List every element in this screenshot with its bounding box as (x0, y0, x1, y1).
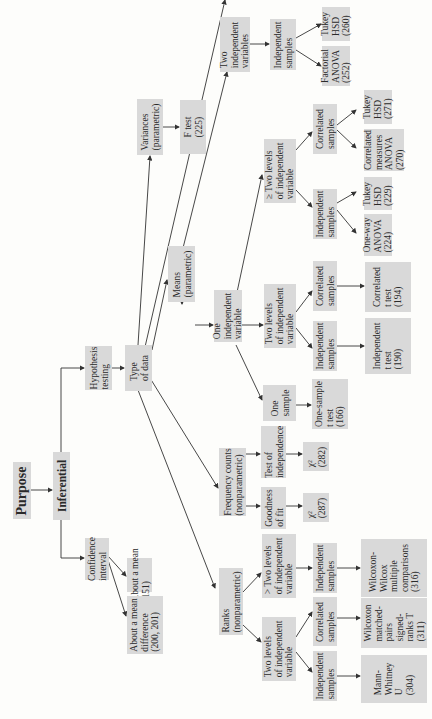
node-factorial-anova: Factorial ANOVA (252) (322, 46, 350, 86)
node-independent-samples-2: Independent samples (313, 321, 337, 371)
node-frequency-counts: Frequency counts (nonparametric) (219, 448, 246, 516)
node-purpose: Purpose (13, 462, 31, 519)
node-wilcoxon-wilcox: Wilcoxon- Wilcox multiple comparisons (3… (361, 539, 427, 597)
node-about-mean-difference: About a mean difference (200, 201) (127, 596, 163, 654)
node-two-levels-ranks: Two levels of independent variable (262, 617, 296, 681)
node-inferential: Inferential (53, 452, 70, 520)
node-correlated-samples-ge2: Correlated samples (313, 104, 337, 154)
node-one-independent-variable: One independent variable (214, 290, 242, 342)
node-f-test: F test (225) (180, 100, 206, 154)
node-correlated-measures-anova: Correlated measures ANOVA (270) (364, 129, 404, 171)
node-test-of-independence: Test of independence (261, 426, 286, 478)
node-about-mean: About a mean (151) (127, 558, 152, 592)
node-independent-t: Independent t test (190) (365, 318, 411, 374)
node-one-sample-t: One-sample t test (166) (312, 379, 348, 429)
node-means: Means (parametric) (168, 246, 195, 302)
node-correlated-t: Correlated t test (194) (365, 262, 411, 312)
node-independent-samples-ranks: Independent samples (313, 651, 337, 701)
node-ranks: Ranks (nonparametric) (219, 568, 243, 635)
node-tukey-229: Tukey HSD (229) (364, 177, 392, 210)
node-type-of-data: Type of data (125, 345, 152, 391)
node-wilcoxon-signed-ranks: Wilcoxon matched- pairs signed- ranks T … (361, 598, 427, 648)
node-correlated-samples-ranks: Correlated samples (313, 597, 337, 646)
node-hypothesis-testing: Hypothesis testing (85, 346, 112, 390)
node-independent-samples-factorial: Independent samples (270, 19, 296, 70)
node-independent-samples-ge2: Independent samples (313, 189, 337, 239)
statistics-decision-tree: Purpose Inferential Hypothesis testing C… (0, 0, 432, 719)
node-chi-282: χ² (282) (303, 442, 329, 471)
node-tukey-260: Tukey HSD (260) (322, 7, 350, 41)
node-one-sample: One sample (263, 385, 296, 421)
node-independent-samples-ranks-gt2: Independent samples (313, 543, 337, 593)
node-two-independent-variables: Two independent variables (220, 17, 250, 72)
node-two-levels: Two levels of independent variable (264, 284, 296, 348)
node-one-way-anova: One-way ANOVA (224) (364, 214, 392, 256)
node-correlated-samples-2: Correlated samples (313, 261, 337, 311)
node-chi-287: χ² (287) (303, 493, 329, 522)
node-goodness-of-fit: Goodness of fit (261, 487, 286, 529)
node-gt-two-levels-ranks: > Two levels of independent variable (262, 534, 296, 598)
node-variances: Variances (parametric) (137, 99, 163, 155)
node-confidence-interval: Confidence interval (85, 538, 109, 580)
node-mann-whitney: Mann- Whitney U (304) (361, 655, 427, 703)
node-tukey-271: Tukey HSD (271) (364, 90, 392, 124)
node-ge-two-levels: ≥ Two levels of independent variable (264, 139, 296, 203)
